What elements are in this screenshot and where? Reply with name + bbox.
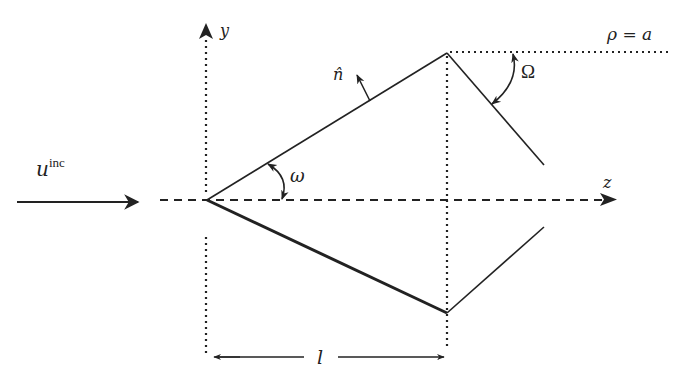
length-label: l xyxy=(317,346,323,368)
y-axis-arrowhead xyxy=(199,23,213,39)
normal-arrow xyxy=(357,75,370,101)
y-axis-label: y xyxy=(219,21,230,40)
z-axis-arrowhead xyxy=(600,193,617,206)
radius-label: ρ = a xyxy=(606,24,652,44)
y-axis xyxy=(199,23,213,355)
Omega-angle-arc xyxy=(492,54,514,104)
cone-lower-back xyxy=(447,227,544,313)
Omega-label: Ω xyxy=(521,61,535,82)
cone-upper-front xyxy=(207,53,447,200)
bicone-diagram: uinc z y ρ = a n̂ ω Ω l xyxy=(0,0,685,379)
omega-label: ω xyxy=(290,165,305,186)
z-axis xyxy=(160,193,617,206)
cone-lower-front xyxy=(207,200,447,313)
incident-wave-label: uinc xyxy=(36,155,65,181)
omega-angle-arc xyxy=(268,164,284,199)
z-axis-label: z xyxy=(602,173,612,192)
normal-label: n̂ xyxy=(333,65,343,84)
